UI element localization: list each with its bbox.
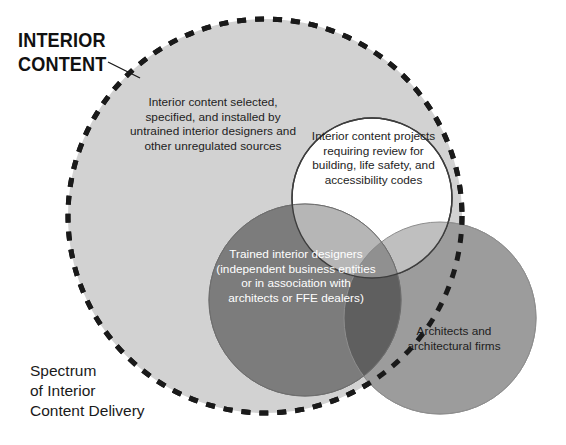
page-title-line-1: Interior bbox=[18, 28, 147, 52]
venn-diagram-figure: Interior Content Interior content select… bbox=[0, 0, 566, 445]
figure-caption-line-2: of Interior bbox=[30, 381, 220, 401]
page-title-line-2: Content bbox=[18, 52, 147, 76]
figure-caption-line-3: Content Delivery bbox=[30, 401, 220, 421]
page-title: Interior Content bbox=[18, 28, 168, 76]
label-architects-firms: Architects and architectural firms bbox=[390, 324, 518, 353]
label-untrained-sources: Interior content selected, specified, an… bbox=[128, 95, 298, 153]
label-code-review-projects: Interior content projects requiring revi… bbox=[302, 129, 445, 187]
figure-caption: Spectrum of Interior Content Delivery bbox=[30, 361, 220, 421]
label-trained-interior-designers: Trained interior designers (independent … bbox=[216, 247, 376, 305]
figure-caption-line-1: Spectrum bbox=[30, 361, 220, 381]
